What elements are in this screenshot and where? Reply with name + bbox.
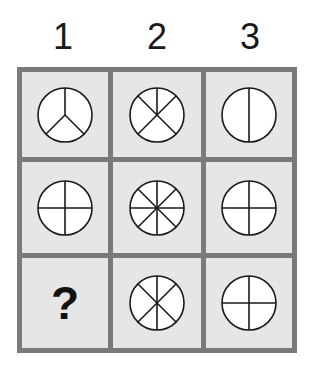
column-header-2: 2 <box>111 12 203 62</box>
column-header-1: 1 <box>17 12 109 62</box>
question-mark: ? <box>51 280 79 326</box>
circle-eight-sectors-icon <box>122 173 192 243</box>
cell-r1-c2 <box>113 72 201 157</box>
cell-r1-c1 <box>22 72 108 157</box>
column-header-3: 3 <box>204 12 296 62</box>
cell-r3-c1: ? <box>22 258 108 348</box>
cell-r2-c1 <box>22 162 108 253</box>
circle-four-sectors-icon <box>30 173 100 243</box>
column-headers: 1 2 3 <box>17 12 297 62</box>
circle-four-sectors-icon <box>214 173 284 243</box>
cell-r2-c3 <box>206 162 292 253</box>
cell-r3-c2 <box>113 258 201 348</box>
puzzle-grid: ? <box>17 67 297 353</box>
circle-five-sectors-icon <box>122 80 192 150</box>
circle-six-sectors-icon <box>122 268 192 338</box>
cell-r3-c3 <box>206 258 292 348</box>
cell-r1-c3 <box>206 72 292 157</box>
cell-r2-c2 <box>113 162 201 253</box>
circle-four-sectors-icon <box>214 268 284 338</box>
circle-three-sectors-icon <box>30 80 100 150</box>
circle-two-sectors-icon <box>214 80 284 150</box>
